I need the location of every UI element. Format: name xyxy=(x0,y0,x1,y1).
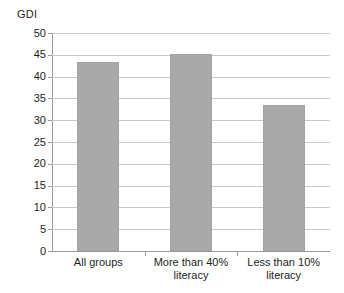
y-axis-tick-labels: 50454035302520151050 xyxy=(0,0,46,293)
bar xyxy=(263,105,305,251)
y-axis-tick-label: 40 xyxy=(2,71,46,82)
bar-slot xyxy=(52,33,145,251)
x-axis-tick-label: Less than 10% literacy xyxy=(237,256,330,282)
y-axis-tick-mark xyxy=(48,77,52,78)
y-axis-tick-mark xyxy=(48,98,52,99)
bar-slot xyxy=(145,33,238,251)
y-axis-tick-mark xyxy=(48,251,52,252)
y-axis-tick-mark xyxy=(48,142,52,143)
y-axis-tick-label: 15 xyxy=(2,180,46,191)
y-axis-tick-mark xyxy=(48,186,52,187)
y-axis-tick-label: 10 xyxy=(2,202,46,213)
x-axis-tick-label: More than 40% literacy xyxy=(145,256,238,282)
bar xyxy=(170,54,212,251)
plot-area xyxy=(52,33,330,251)
y-axis-tick-mark xyxy=(48,120,52,121)
x-axis-tick-mark xyxy=(145,251,146,256)
y-axis-tick-mark xyxy=(48,229,52,230)
y-axis-tick-label: 25 xyxy=(2,137,46,148)
bar-slot xyxy=(237,33,330,251)
y-axis-tick-mark xyxy=(48,207,52,208)
y-axis-tick-label: 5 xyxy=(2,224,46,235)
y-axis-tick-label: 45 xyxy=(2,49,46,60)
y-axis-tick-label: 30 xyxy=(2,115,46,126)
y-axis-tick-label: 0 xyxy=(2,246,46,257)
bar xyxy=(77,62,119,251)
y-axis-tick-mark xyxy=(48,164,52,165)
y-axis-tick-mark xyxy=(48,55,52,56)
x-axis-tick-mark xyxy=(237,251,238,256)
y-axis-tick-mark xyxy=(48,33,52,34)
bar-chart-figure: GDI 50454035302520151050 All groupsMore … xyxy=(0,0,344,293)
gridline xyxy=(52,251,330,252)
x-axis-tick-labels: All groupsMore than 40% literacyLess tha… xyxy=(52,256,330,292)
y-axis-tick-label: 35 xyxy=(2,93,46,104)
y-axis-tick-label: 50 xyxy=(2,28,46,39)
y-axis-tick-label: 20 xyxy=(2,158,46,169)
x-axis-tick-label: All groups xyxy=(52,256,145,269)
